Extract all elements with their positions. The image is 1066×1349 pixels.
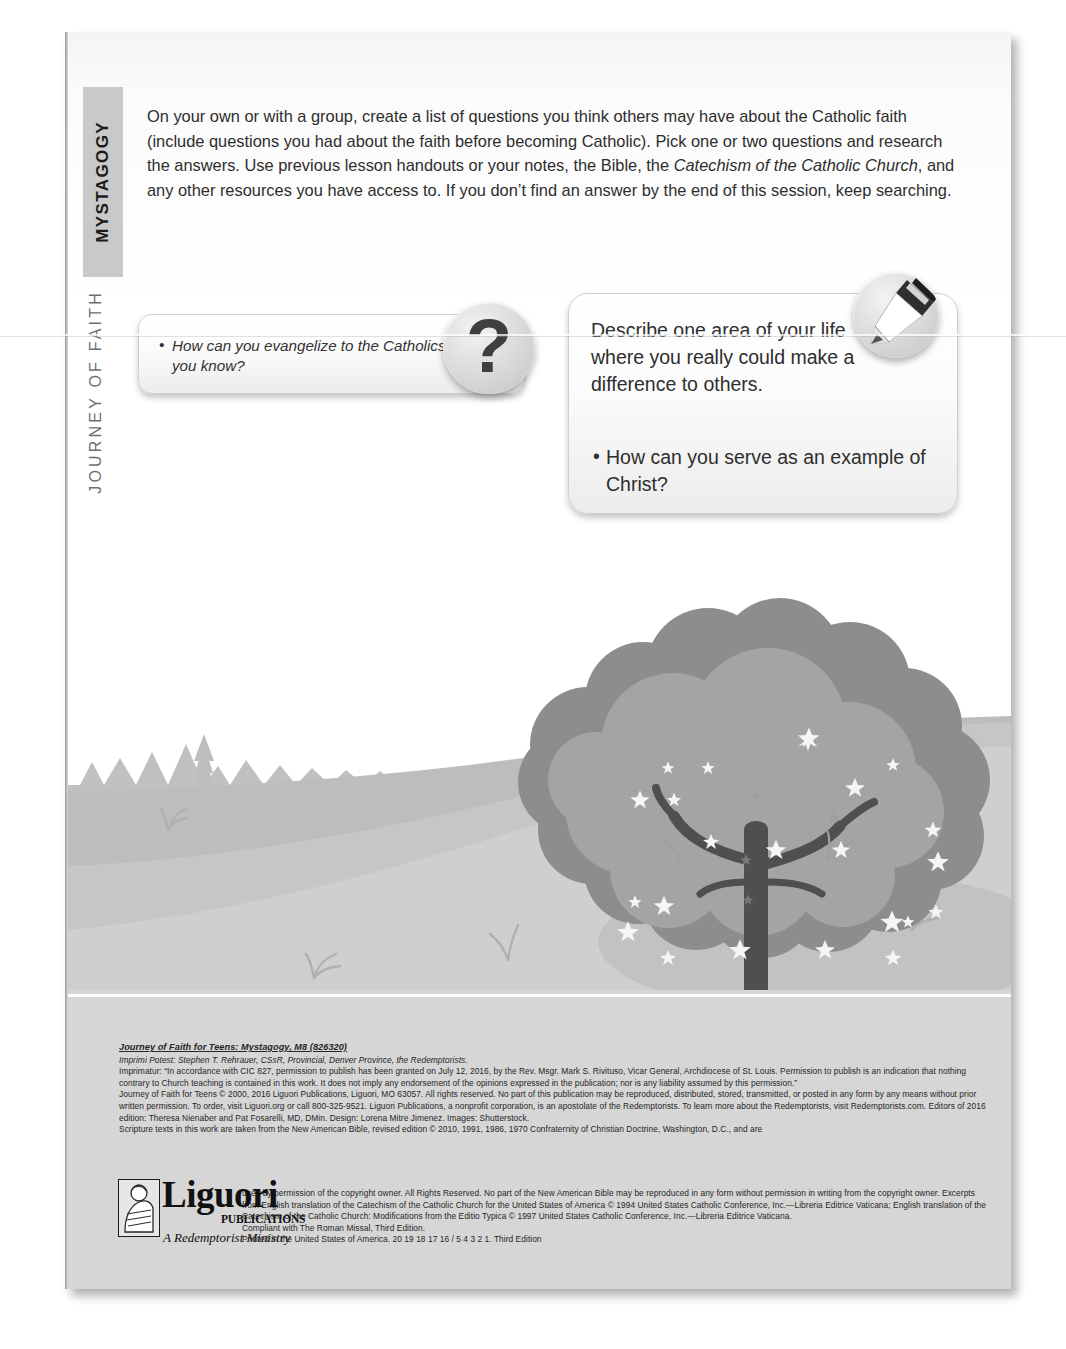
series-label-text: JOURNEY OF FAITH — [87, 290, 105, 494]
document-page: MYSTAGOGY JOURNEY OF FAITH On your own o… — [65, 32, 1011, 1289]
liguori-tagline: A Redemptorist Ministry — [163, 1230, 291, 1246]
footer-colophon-block-a: Journey of Faith for Teens: Mystagogy, M… — [119, 1042, 987, 1136]
footer: Journey of Faith for Teens: Mystagogy, M… — [68, 990, 1011, 1289]
footer-line-scripture: Scripture texts in this work are taken f… — [119, 1124, 987, 1136]
liguori-sub-label: PUBLICATIONS — [221, 1213, 305, 1225]
section-tab-mystagogy: MYSTAGOGY — [83, 87, 123, 277]
footer-line-missal: Compliant with The Roman Missal, Third E… — [242, 1223, 987, 1235]
footer-line-imprimatur: Imprimatur: “In accordance with CIC 827,… — [119, 1066, 987, 1089]
intro-italic-catechism: Catechism of the Catholic Church — [674, 156, 918, 174]
callout-left-text: How can you evangelize to the Catholics … — [157, 336, 447, 376]
footer-line-imprimi-text: Imprimi Potest: Stephen T. Rehrauer, CSs… — [119, 1055, 468, 1065]
question-mark-icon: ? — [443, 302, 535, 394]
section-tab-label: MYSTAGOGY — [93, 121, 113, 243]
callout-left-bullet: How can you evangelize to the Catholics … — [172, 336, 447, 376]
series-label: JOURNEY OF FAITH — [87, 282, 105, 502]
pen-nib-icon — [853, 272, 939, 358]
footer-colophon-block-b: used by permission of the copyright owne… — [242, 1188, 987, 1246]
footer-line-copyright: Journey of Faith for Teens © 2000, 2016 … — [119, 1089, 987, 1124]
footer-divider — [68, 994, 1011, 997]
illustration-svg — [68, 530, 1011, 990]
liguori-saint-figure-icon — [119, 1180, 157, 1234]
footer-line-permission: used by permission of the copyright owne… — [242, 1188, 987, 1223]
footer-line-printed: Printed in the United States of America.… — [242, 1234, 987, 1246]
callout-right-bullet: How can you serve as an example of Chris… — [606, 444, 941, 498]
liguori-wordmark: Liguori — [162, 1175, 278, 1215]
callout-right-heading: Describe one area of your life where you… — [591, 317, 866, 398]
pen-nib-glyph — [853, 272, 939, 358]
tree-trunk — [744, 821, 768, 990]
footer-title: Journey of Faith for Teens: Mystagogy, M… — [119, 1042, 987, 1054]
callout-right-bullet-wrap: How can you serve as an example of Chris… — [591, 444, 941, 498]
liguori-emblem-icon — [118, 1179, 160, 1237]
illustration-flowering-tree — [68, 530, 1011, 990]
footer-line-imprimi: Imprimi Potest: Stephen T. Rehrauer, CSs… — [119, 1055, 987, 1067]
intro-paragraph: On your own or with a group, create a li… — [147, 104, 960, 202]
question-mark-glyph: ? — [466, 308, 512, 384]
liguori-logo: Liguori PUBLICATIONS A Redemptorist Mini… — [118, 1177, 293, 1255]
